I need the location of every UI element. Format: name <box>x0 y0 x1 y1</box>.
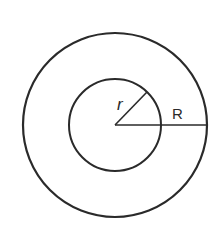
diagram-canvas: r R <box>0 0 216 236</box>
outer-radius-label: R <box>172 105 183 122</box>
inner-radius-label: r <box>117 95 124 114</box>
concentric-circles-figure: r R <box>0 0 216 236</box>
